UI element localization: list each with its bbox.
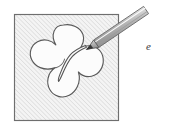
figure-illustration <box>0 0 170 134</box>
figure-label: e <box>146 40 151 52</box>
figure-container: e <box>0 0 170 134</box>
